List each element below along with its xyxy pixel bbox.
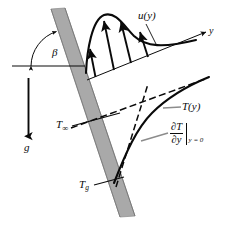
temperature-gradient-expression: ∂T ∂y y = 0 (170, 122, 203, 145)
inclination-angle-label: β (52, 47, 57, 58)
inclined-flat-plate (51, 8, 135, 217)
wall-temperature-label: Tg (79, 179, 89, 192)
wall-temperature-gradient-tangent-dashed-line (116, 84, 148, 187)
gravity-label: g (24, 142, 30, 153)
derivative-numerator: ∂T (170, 122, 183, 133)
y-axis-label: y (209, 26, 213, 36)
figure-canvas: β g y u(y) T(y) T∞ Tg ∂T ∂y y = 0 (0, 0, 227, 228)
free-stream-temperature-label: T∞ (56, 119, 68, 132)
velocity-profile-curve (86, 14, 196, 73)
diagram-graphics (0, 0, 227, 228)
wall-temperature-subscript: g (85, 183, 89, 192)
evaluation-bar (186, 123, 187, 145)
derivative-denominator: ∂y (171, 135, 183, 146)
partial-derivative-fraction: ∂T ∂y (170, 122, 183, 145)
velocity-profile-vectors (90, 21, 148, 77)
derivative-evaluation-subscript: y = 0 (189, 136, 204, 145)
y-axis-arrow (87, 32, 206, 80)
velocity-profile-label: u(y) (138, 10, 156, 21)
free-stream-temperature-subscript: ∞ (62, 123, 68, 133)
temperature-profile-label: T(y) (182, 101, 200, 112)
